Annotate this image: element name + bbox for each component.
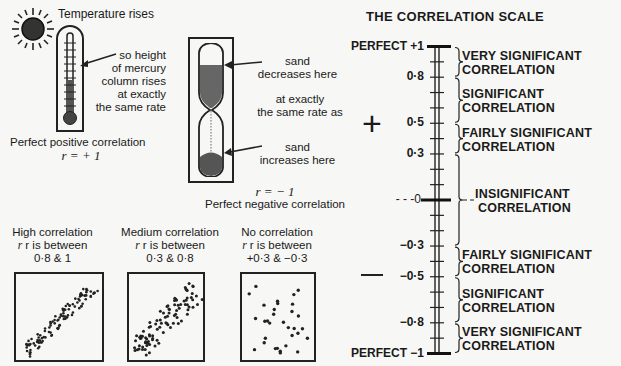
scale-tick-label: −0·5 bbox=[304, 269, 424, 283]
scale-tick-label: PERFECT +1 bbox=[304, 39, 424, 53]
thermometer-icon bbox=[55, 25, 85, 133]
category-label: FAIRLY SIGNIFICANTCORRELATION bbox=[462, 248, 592, 276]
category-label: FAIRLY SIGNIFICANTCORRELATION bbox=[462, 126, 592, 154]
r-between-text: r is between bbox=[250, 239, 312, 251]
scale-tick-label: 0·3 bbox=[304, 146, 424, 160]
r-between: r r is between bbox=[115, 239, 225, 252]
scale-tick-label: 0·5 bbox=[304, 115, 424, 129]
scale-tick-label: PERFECT −1 bbox=[304, 346, 424, 360]
high-correlation-scatter bbox=[14, 272, 104, 362]
scale-tick-label: - - -0- bbox=[305, 192, 425, 206]
category-label: INSIGNIFICANTCORRELATION bbox=[475, 187, 571, 215]
mercury-annotation: so height of mercury column rises at exa… bbox=[86, 49, 166, 114]
scale-tick-label: −0·8 bbox=[304, 315, 424, 329]
r-between: r r is between bbox=[5, 239, 100, 252]
correlation-scale-axis bbox=[320, 0, 480, 366]
category-label: VERY SIGNIFICANTCORRELATION bbox=[462, 49, 582, 77]
category-label: SIGNIFICANTCORRELATION bbox=[462, 87, 555, 115]
medium-correlation-caption: Medium correlation r r is between 0·3 & … bbox=[115, 226, 225, 265]
scale-tick-label: 0·8 bbox=[304, 69, 424, 83]
r-plus-one-label: r = + 1 bbox=[10, 149, 152, 162]
medium-correlation-scatter bbox=[127, 272, 205, 362]
positive-correlation-example: Temperature rises so height of mercury c… bbox=[0, 0, 175, 160]
temperature-rises-label: Temperature rises bbox=[58, 8, 154, 21]
category-label: SIGNIFICANTCORRELATION bbox=[462, 287, 555, 315]
scatter-examples: High correlation r r is between 0·8 & 1 … bbox=[0, 226, 320, 366]
sun-icon bbox=[10, 6, 56, 52]
scale-tick-label: −0·3 bbox=[304, 238, 424, 252]
r-between-text: r is between bbox=[143, 239, 205, 251]
brace-icon bbox=[455, 155, 463, 245]
hourglass-icon bbox=[197, 43, 225, 177]
high-correlation-caption: High correlation r r is between 0·8 & 1 bbox=[5, 226, 100, 265]
r-between-text: r is between bbox=[25, 239, 87, 251]
category-label: VERY SIGNIFICANTCORRELATION bbox=[462, 325, 582, 353]
